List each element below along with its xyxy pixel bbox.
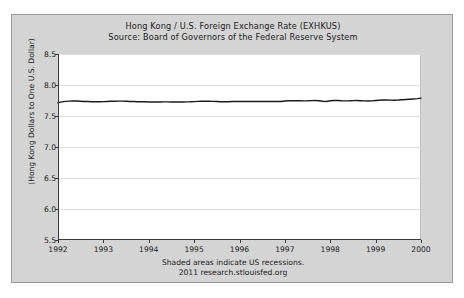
y-tick-label: 6.5	[30, 174, 56, 183]
recession-note: Shaded areas indicate US recessions.	[12, 258, 454, 268]
x-tick-mark	[330, 240, 331, 243]
x-tick-label: 1996	[220, 245, 260, 254]
x-tick-mark	[194, 240, 195, 243]
y-axis: 5.56.06.57.07.58.08.5	[26, 54, 56, 240]
x-tick-label: 1994	[129, 245, 169, 254]
plot-left-spine	[58, 54, 59, 240]
y-tick-label: 6.0	[30, 205, 56, 214]
x-tick-mark	[103, 240, 104, 243]
y-tick-label: 8.5	[30, 50, 56, 59]
y-tick-label: 7.5	[30, 112, 56, 121]
plot-area	[58, 54, 421, 240]
chart-panel: Hong Kong / U.S. Foreign Exchange Rate (…	[11, 14, 453, 283]
x-tick-mark	[421, 240, 422, 243]
x-tick-label: 1997	[265, 245, 305, 254]
x-tick-mark	[285, 240, 286, 243]
x-tick-label: 1995	[174, 245, 214, 254]
x-tick-label: 2000	[401, 245, 441, 254]
x-tick-mark	[149, 240, 150, 243]
chart-title: Hong Kong / U.S. Foreign Exchange Rate (…	[12, 21, 454, 32]
x-axis: 199219931994199519961997199819992000	[58, 240, 421, 258]
x-tick-label: 1999	[356, 245, 396, 254]
x-tick-label: 1992	[38, 245, 78, 254]
series-line-chart	[58, 54, 421, 240]
x-tick-label: 1998	[310, 245, 350, 254]
x-tick-mark	[58, 240, 59, 243]
x-tick-label: 1993	[83, 245, 123, 254]
y-tick-label: 5.5	[30, 236, 56, 245]
source-attribution: 2011 research.stlouisfed.org	[12, 268, 454, 278]
chart-title-block: Hong Kong / U.S. Foreign Exchange Rate (…	[12, 21, 454, 43]
chart-subtitle: Source: Board of Governors of the Federa…	[12, 32, 454, 43]
x-tick-mark	[240, 240, 241, 243]
x-tick-mark	[376, 240, 377, 243]
y-tick-label: 8.0	[30, 81, 56, 90]
y-tick-label: 7.0	[30, 143, 56, 152]
series-exhkus-line	[58, 98, 421, 103]
chart-footer-block: Shaded areas indicate US recessions. 201…	[12, 258, 454, 278]
